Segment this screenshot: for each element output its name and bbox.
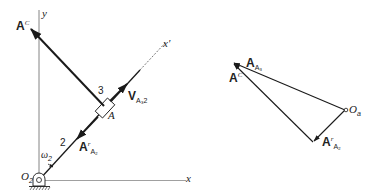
relative-accel-label-right: ArA₂ (322, 136, 341, 150)
relative-accel-vector-left (77, 117, 98, 139)
x-axis-label: x (186, 173, 191, 184)
origin-oa-label: Oa (349, 104, 361, 117)
y-axis-label: y (42, 8, 47, 19)
coriolis-label-left: AC (16, 20, 29, 32)
link-axis-label: x′ (163, 38, 170, 49)
total-accel-label: AA₃ (246, 57, 262, 71)
pivot-label: O2 (21, 171, 33, 184)
kinematics-diagram (0, 0, 378, 195)
omega-label: ω2 (41, 150, 52, 162)
slider-number: 3 (98, 86, 104, 96)
velocity-vector (110, 84, 127, 101)
coriolis-label-right: AC (229, 72, 242, 84)
relative-accel-label-left: ArA₂ (79, 141, 98, 155)
right-diagram (234, 63, 348, 142)
slider-point-label: A (108, 110, 115, 121)
coriolis-vector-right (234, 64, 313, 142)
coriolis-vector-left (31, 29, 104, 106)
velocity-label: VA₃2 (128, 90, 147, 104)
origin-oa-point (344, 108, 348, 112)
link-number: 2 (60, 138, 66, 148)
